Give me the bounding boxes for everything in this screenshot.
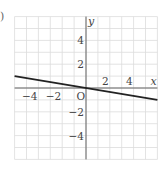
y-tick-label: −2 — [69, 106, 84, 118]
y-tick-label: 2 — [77, 58, 84, 70]
x-tick-label: −4 — [22, 90, 38, 102]
x-axis-label: x — [150, 75, 157, 88]
y-tick-label: 4 — [77, 34, 84, 46]
x-tick-label: 2 — [102, 75, 109, 87]
y-tick-label: −4 — [69, 130, 85, 142]
origin-label: O — [76, 90, 85, 102]
x-tick-label: 4 — [126, 75, 133, 87]
x-tick-label: −2 — [46, 90, 61, 102]
y-axis-label: y — [87, 15, 95, 28]
coordinate-plot: −4−22442−2−4 x y O — [0, 0, 166, 170]
